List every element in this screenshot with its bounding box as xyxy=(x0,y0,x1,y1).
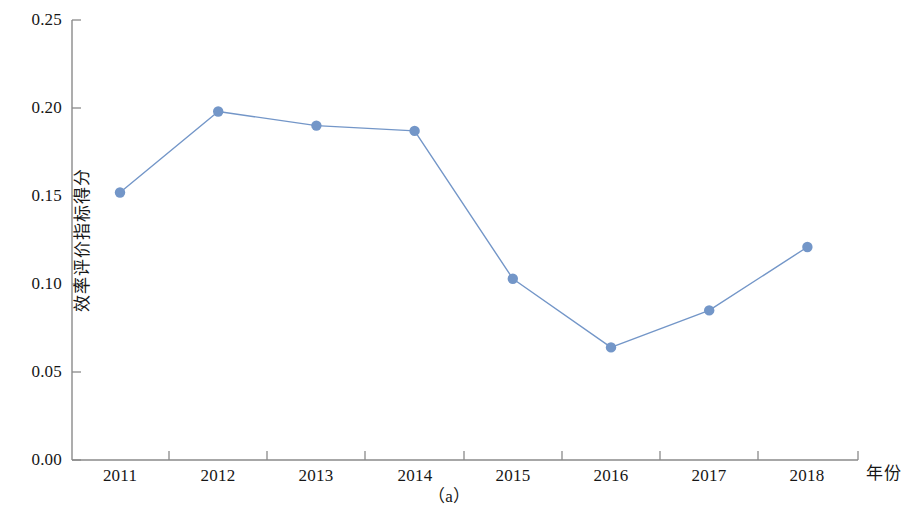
y-tick-label-0.25: 0.25 xyxy=(0,10,62,30)
x-tick-label-2016: 2016 xyxy=(594,466,629,486)
data-point-2018 xyxy=(802,242,812,252)
y-axis-title: 效率评价指标得分 xyxy=(68,168,93,312)
data-point-2012 xyxy=(213,106,223,116)
x-tick-label-2011: 2011 xyxy=(103,466,137,486)
data-point-2014 xyxy=(409,126,419,136)
data-point-2011 xyxy=(115,187,125,197)
x-axis-title: 年份 xyxy=(866,459,902,484)
x-tick-label-2014: 2014 xyxy=(398,466,433,486)
data-point-2015 xyxy=(508,274,518,284)
x-tick-label-2015: 2015 xyxy=(496,466,531,486)
data-point-2016 xyxy=(606,342,616,352)
y-tick-label-0.00: 0.00 xyxy=(0,450,62,470)
data-point-2017 xyxy=(704,305,714,315)
x-tick-label-2013: 2013 xyxy=(299,466,334,486)
y-tick-label-0.10: 0.10 xyxy=(0,274,62,294)
subfigure-caption: （a） xyxy=(428,482,470,505)
series-markers xyxy=(115,106,813,352)
y-tick-label-0.20: 0.20 xyxy=(0,98,62,118)
y-tick-label-0.05: 0.05 xyxy=(0,362,62,382)
x-axis-ticks xyxy=(169,451,858,460)
x-tick-label-2012: 2012 xyxy=(201,466,236,486)
x-tick-label-2018: 2018 xyxy=(790,466,825,486)
y-tick-label-0.15: 0.15 xyxy=(0,186,62,206)
x-tick-label-2017: 2017 xyxy=(692,466,727,486)
data-point-2013 xyxy=(311,120,321,130)
